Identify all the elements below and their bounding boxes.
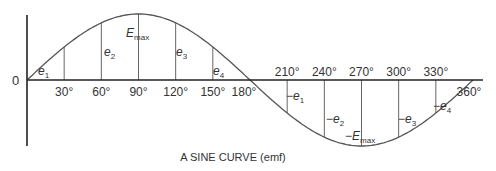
tick-label: 60° <box>92 85 110 99</box>
ordinate-label: −e1 <box>286 89 305 105</box>
tick-label: 270° <box>349 65 374 79</box>
tick-label: 300° <box>386 65 411 79</box>
caption: A SINE CURVE (emf) <box>180 151 286 163</box>
ordinate-label: −Emax <box>345 129 375 145</box>
ordinate-label: e4 <box>213 64 225 80</box>
tick-label: 120° <box>163 85 188 99</box>
tick-label: 240° <box>312 65 337 79</box>
tick-label: 360° <box>457 85 482 99</box>
tick-labels: 30°60°90°120°150°180°210°240°270°300°330… <box>55 65 482 99</box>
ordinate-label: −e3 <box>398 112 417 128</box>
ordinate-label: e3 <box>176 45 188 61</box>
origin-label: 0 <box>12 73 19 88</box>
ordinate-label: −e2 <box>326 112 345 128</box>
tick-label: 180° <box>232 85 257 99</box>
ordinate-label: e2 <box>104 45 116 61</box>
ordinate-label: Emax <box>126 26 149 42</box>
tick-label: 30° <box>55 85 73 99</box>
tick-label: 330° <box>423 65 448 79</box>
ordinate-label: e1 <box>38 64 50 80</box>
tick-label: 210° <box>275 65 300 79</box>
sine-curve-diagram: 0 30°60°90°120°150°180°210°240°270°300°3… <box>0 0 496 171</box>
tick-label: 90° <box>129 85 147 99</box>
tick-label: 150° <box>200 85 225 99</box>
